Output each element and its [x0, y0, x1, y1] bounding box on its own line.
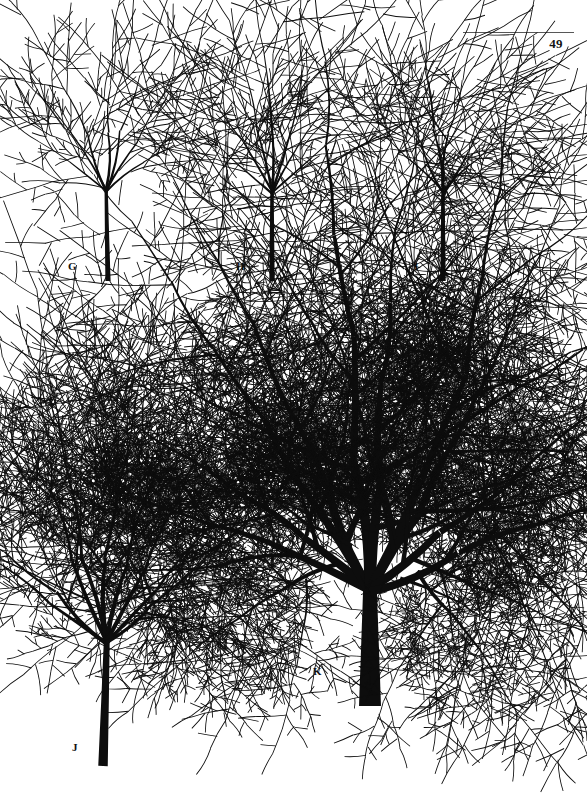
figure-plate: GHIJK [0, 0, 587, 799]
tree-specimen-k [166, 314, 574, 706]
book-page: 49 GHIJK [0, 0, 587, 799]
specimen-label-j: J [72, 742, 78, 753]
specimen-label-k: K [313, 666, 322, 677]
